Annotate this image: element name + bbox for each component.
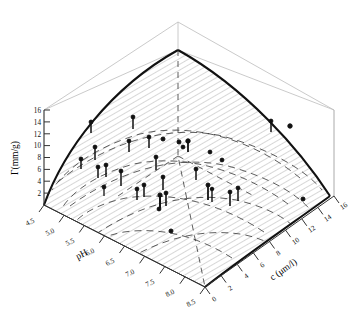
z-tick-label: 2 (37, 190, 41, 198)
z-tick-label: 10 (34, 142, 42, 150)
z-tick-label: 4 (37, 178, 41, 186)
data-point (301, 197, 305, 201)
data-point (220, 158, 224, 162)
data-point (157, 207, 161, 211)
z-tick-label: 14 (34, 119, 42, 127)
z-tick-label: 16 (34, 107, 42, 115)
z-tick-label: 8 (37, 154, 41, 162)
data-point (161, 137, 165, 141)
data-point (169, 229, 173, 233)
data-point (181, 145, 185, 149)
data-point (288, 124, 292, 128)
z-tick-label: 12 (34, 131, 42, 139)
data-point (208, 150, 212, 154)
z-tick-label: 6 (37, 166, 41, 174)
data-point (177, 140, 181, 144)
surface-plot-canvas: 2 4 6 8 10 12 14 16 Γ(mm/g) 4.5 5.0 5. (0, 0, 364, 314)
figure-3d-surface-plot: 2 4 6 8 10 12 14 16 Γ(mm/g) 4.5 5.0 5. (0, 0, 364, 314)
z-axis-label: Γ(mm/g) (10, 141, 21, 175)
